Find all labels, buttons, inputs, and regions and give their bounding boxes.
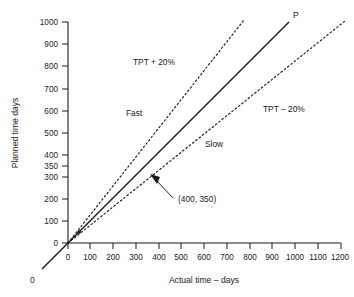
x-tick-label-400: 400 <box>152 253 166 262</box>
x-tick-label-200: 200 <box>106 253 120 262</box>
x-tick-label-1200: 1200 <box>331 253 350 262</box>
y-tick-label-700: 700 <box>44 85 58 94</box>
y-axis-ticks <box>62 22 68 243</box>
series-label-tpt-plus-20: TPT + 20% <box>133 57 176 67</box>
region-label-slow: Slow <box>205 139 224 149</box>
series-endpoint-label-p: P <box>293 10 299 20</box>
data-point-marker-origin <box>77 230 81 234</box>
x-axis-tick-labels: 0 100 200 300 400 500 600 700 800 900 10… <box>66 253 350 262</box>
plot-area: 1000 900 800 700 600 500 400 350 300 200… <box>0 0 354 297</box>
series-line-p <box>68 22 289 243</box>
x-tick-label-300: 300 <box>129 253 143 262</box>
x-tick-label-1100: 1100 <box>309 253 327 262</box>
scan-speck-artifact <box>211 206 212 207</box>
y-tick-label-900: 900 <box>44 40 58 49</box>
series-line-tpt-minus-20 <box>68 21 345 243</box>
y-tick-label-200: 200 <box>44 195 58 204</box>
y-tick-label-0: 0 <box>53 239 58 248</box>
series-label-tpt-minus-20: TPT – 20% <box>263 104 305 114</box>
series-endpoint-label-zero: 0 <box>30 275 35 285</box>
y-tick-label-100: 100 <box>44 217 58 226</box>
y-tick-label-800: 800 <box>44 62 58 71</box>
y-tick-label-350: 350 <box>44 162 58 171</box>
y-tick-label-500: 500 <box>44 129 58 138</box>
x-tick-label-500: 500 <box>174 253 188 262</box>
x-tick-label-900: 900 <box>265 253 279 262</box>
x-tick-label-0: 0 <box>66 253 71 262</box>
y-axis-title: Planned time days <box>10 98 20 169</box>
x-tick-label-800: 800 <box>243 253 257 262</box>
y-tick-label-400: 400 <box>44 151 58 160</box>
y-tick-label-1000: 1000 <box>40 18 59 27</box>
y-axis-tick-labels: 1000 900 800 700 600 500 400 350 300 200… <box>40 18 59 248</box>
region-label-fast: Fast <box>126 108 143 118</box>
x-axis-title: Actual time – days <box>169 275 239 285</box>
x-tick-label-700: 700 <box>220 253 234 262</box>
chart-container: 1000 900 800 700 600 500 400 350 300 200… <box>0 0 354 297</box>
y-tick-label-600: 600 <box>44 107 58 116</box>
y-tick-label-300: 300 <box>44 173 58 182</box>
x-tick-label-100: 100 <box>83 253 97 262</box>
axis-lines <box>68 22 341 243</box>
point-annotation-400-350: (400, 350) <box>150 174 216 204</box>
series-line-tpt-plus-20 <box>68 20 244 243</box>
x-axis-ticks <box>68 243 341 249</box>
x-tick-label-1000: 1000 <box>286 253 305 262</box>
x-tick-label-600: 600 <box>197 253 211 262</box>
annotation-label-400-350: (400, 350) <box>178 194 216 204</box>
